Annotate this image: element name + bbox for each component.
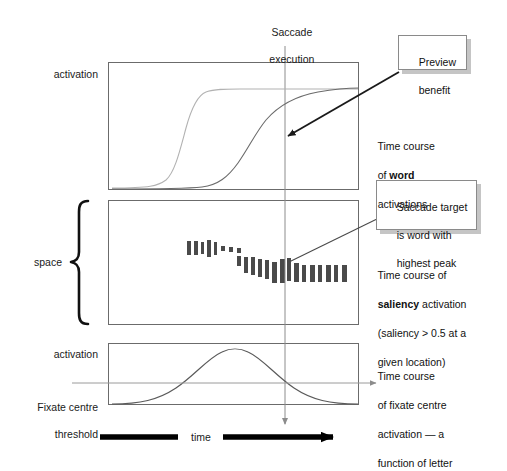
- note-word-line2-pre: of: [378, 169, 390, 181]
- callout-saccade-target-line2: is word with: [397, 229, 452, 241]
- saccade-execution-label: Saccade execution: [240, 12, 332, 80]
- callout-preview-benefit: Preview benefit: [398, 35, 467, 70]
- saliency-bar: [201, 242, 204, 254]
- activation-label-bottom: activation: [10, 348, 98, 362]
- saliency-bar-peak: [287, 258, 291, 281]
- saliency-bar: [194, 241, 198, 255]
- time-axis-label: time: [180, 431, 222, 445]
- saliency-bar: [342, 265, 347, 282]
- note-word-line1: Time course: [377, 140, 434, 152]
- note-fixate-line4: function of letter: [378, 457, 453, 469]
- figure-canvas: Saccade execution activation space activ…: [0, 0, 507, 471]
- saliency-bar: [318, 265, 322, 282]
- note-saliency-line3: (saliency > 0.5 at a: [378, 327, 466, 339]
- note-word-activations: Time course of word activations: [366, 124, 506, 226]
- activation-label-top: activation: [10, 68, 98, 82]
- note-fixate-centre: Time course of fixate centre activation …: [366, 354, 507, 471]
- saliency-bar: [214, 242, 217, 255]
- note-fixate-line2: of fixate centre: [378, 399, 447, 411]
- saliency-bar: [294, 263, 299, 282]
- saliency-bar: [272, 262, 277, 283]
- note-word-line3: activations: [378, 198, 428, 210]
- saliency-bar: [229, 247, 233, 252]
- note-saliency-line1: Time course of: [377, 269, 446, 281]
- saliency-bar: [244, 257, 248, 273]
- callout-preview-benefit-line1: Preview: [419, 56, 456, 68]
- saliency-bar: [302, 265, 306, 282]
- saliency-bar: [265, 260, 269, 279]
- saliency-bar: [310, 265, 315, 282]
- note-saliency-line2-post: activation: [419, 298, 466, 310]
- note-word-line2-bold: word: [389, 169, 414, 181]
- saccade-execution-line2: execution: [269, 53, 314, 65]
- saliency-bar: [251, 257, 255, 275]
- callout-preview-benefit-line2: benefit: [419, 84, 451, 96]
- saliency-bar: [237, 248, 241, 253]
- note-fixate-line3: activation — a: [378, 428, 445, 440]
- saliency-bar: [237, 256, 241, 266]
- space-label: space: [4, 256, 62, 270]
- note-saliency-line2-bold: saliency: [378, 298, 419, 310]
- fixate-threshold-line2: threshold: [55, 428, 98, 440]
- saliency-bar: [187, 241, 191, 255]
- saliency-bar: [334, 265, 338, 282]
- saliency-bar: [221, 246, 225, 251]
- fixate-threshold-line1: Fixate centre: [37, 401, 98, 413]
- saliency-bar: [326, 265, 331, 282]
- saliency-bar: [280, 259, 285, 283]
- saccade-execution-line1: Saccade: [271, 26, 312, 38]
- note-fixate-line1: Time course: [377, 370, 434, 382]
- fixate-threshold-label: Fixate centre threshold: [2, 387, 98, 455]
- saliency-bar: [207, 240, 211, 257]
- saliency-bar: [258, 259, 262, 277]
